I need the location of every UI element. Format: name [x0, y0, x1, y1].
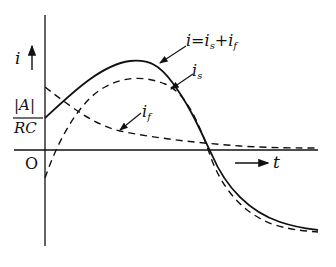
is-curve-label: is: [192, 63, 202, 81]
if-curve-label: if: [142, 104, 151, 122]
if-pointer-icon: [120, 113, 141, 130]
total-pointer-icon: [160, 46, 186, 63]
total-curve-label: i=is+if: [186, 33, 237, 51]
curve-total: [45, 61, 318, 230]
y-marker-numerator: |A|: [14, 98, 35, 113]
diagram-canvas: [0, 0, 336, 267]
if-label-sub: f: [147, 111, 151, 122]
origin-label: O: [25, 156, 38, 172]
is-pointer-icon: [171, 74, 193, 89]
current-response-diagram: i t O |A| RC i=is+if is if: [0, 0, 336, 267]
y-axis-label: i: [15, 50, 20, 67]
y-marker-denominator: RC: [14, 121, 37, 136]
total-label-sub2: f: [233, 40, 237, 51]
x-axis-label: t: [273, 154, 280, 171]
total-label-plus: +i: [215, 31, 234, 50]
total-label-main: i=i: [186, 31, 210, 50]
is-label-sub: s: [197, 70, 202, 81]
